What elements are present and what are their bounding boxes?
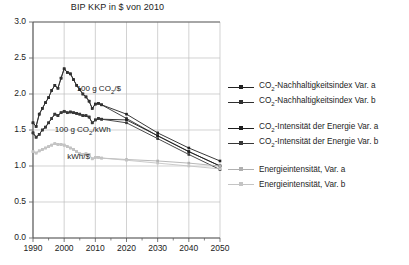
series-point-marker (41, 107, 44, 110)
legend-item-label: CO2-Intensität der Energie Var. a (259, 121, 378, 136)
chart-legend: CO2-Nachhaltigkeitsindex Var. aCO2-Nachh… (228, 80, 409, 192)
series-point-marker (41, 129, 44, 132)
y-axis-tick-label: 0.5 (2, 196, 26, 206)
series-point-marker (125, 113, 128, 116)
series-point-marker (219, 168, 222, 171)
legend-item[interactable]: CO2-Intensität der Energie Var. a (228, 121, 409, 136)
x-axis-tick-label: 2040 (172, 243, 206, 253)
legend-item-label: Energieintensität, Var. b (259, 179, 345, 190)
series-point-marker (125, 122, 128, 125)
series-point-marker (41, 148, 44, 151)
series-point-marker (66, 111, 69, 114)
series-point-marker (94, 119, 97, 122)
series-point-marker (69, 147, 72, 150)
legend-item[interactable]: CO2-Nachhaltigkeitsindex Var. b (228, 95, 409, 110)
legend-item-label: CO2-Nachhaltigkeitsindex Var. b (259, 95, 376, 110)
legend-line-swatch (228, 97, 254, 108)
series-point-marker (188, 150, 191, 153)
series-point-marker (156, 134, 159, 137)
y-axis-tick-label: 2.0 (2, 88, 26, 98)
series-point-marker (60, 143, 63, 146)
legend-item[interactable]: Energieintensität, Var. a (228, 162, 409, 177)
x-axis-tick-label: 2050 (203, 243, 237, 253)
series-point-marker (66, 145, 69, 148)
series-point-marker (125, 159, 128, 162)
x-axis-tick-label: 2000 (47, 243, 81, 253)
legend-group-spacer (228, 110, 409, 121)
x-axis-tick-label: 2010 (78, 243, 112, 253)
series-point-marker (44, 101, 47, 104)
series-point-marker (156, 137, 159, 140)
series-point-marker (97, 156, 100, 159)
y-axis-tick-label: 0.0 (2, 232, 26, 242)
series-point-marker (47, 96, 50, 99)
series-point-marker (85, 96, 88, 99)
series-point-marker (100, 104, 103, 107)
series-point-marker (54, 142, 57, 145)
y-axis-tick-label: 3.0 (2, 16, 26, 26)
series-point-marker (188, 165, 191, 168)
series-point-marker (78, 113, 81, 116)
series-point-marker (72, 148, 75, 151)
annotation-kwh-per-dollar: kWh/$ (67, 152, 90, 161)
series-point-marker (63, 144, 66, 147)
series-point-marker (38, 113, 41, 116)
series-point-marker (91, 122, 94, 125)
series-point-marker (32, 150, 35, 153)
series-point-marker (91, 107, 94, 110)
series-point-marker (60, 77, 63, 80)
series-point-marker (72, 78, 75, 81)
series-point-marker (91, 158, 94, 161)
legend-line-swatch (228, 82, 254, 93)
series-point-marker (54, 84, 57, 87)
legend-line-swatch (228, 138, 254, 149)
subscript: 2 (89, 129, 92, 135)
series-point-marker (188, 153, 191, 156)
legend-item[interactable]: CO2-Intensität der Energie Var. b (228, 136, 409, 151)
series-point-marker (69, 111, 72, 114)
legend-item[interactable]: Energieintensität, Var. b (228, 177, 409, 192)
series-point-marker (66, 71, 69, 74)
series-point-marker (35, 136, 38, 139)
series-point-marker (156, 162, 159, 165)
series-point-marker (97, 117, 100, 120)
legend-item-label: CO2-Intensität der Energie Var. b (259, 136, 378, 151)
series-point-marker (63, 68, 66, 71)
legend-item-label: CO2-Nachhaltigkeitsindex Var. a (259, 80, 376, 95)
subscript: 2 (271, 127, 274, 133)
subscript: 2 (111, 88, 114, 94)
annotation-co2-per-kwh: 100 g CO2/kWh (55, 125, 111, 136)
series-point-marker (63, 110, 66, 113)
series-point-marker (54, 113, 57, 116)
x-axis-tick-label: 1990 (16, 243, 50, 253)
series-point-marker (50, 144, 53, 147)
x-axis-tick-label: 2030 (141, 243, 175, 253)
legend-line-swatch (228, 179, 254, 190)
subscript: 2 (271, 86, 274, 92)
legend-item-label: Energieintensität, Var. a (259, 164, 345, 175)
legend-item[interactable]: CO2-Nachhaltigkeitsindex Var. a (228, 80, 409, 95)
legend-line-swatch (228, 123, 254, 134)
subscript: 2 (271, 101, 274, 107)
series-point-marker (75, 112, 78, 115)
series-point-marker (72, 111, 75, 114)
series-point-marker (38, 150, 41, 153)
series-point-marker (50, 89, 53, 92)
y-axis-tick-label: 2.5 (2, 52, 26, 62)
chart-title: BIP KKP in $ von 2010 (0, 2, 235, 12)
series-point-marker (156, 132, 159, 135)
series-point-marker (100, 118, 103, 121)
legend-line-swatch (228, 164, 254, 175)
series-point-marker (97, 102, 100, 105)
series-point-marker (60, 111, 63, 114)
series-point-marker (188, 162, 191, 165)
series-point-marker (94, 156, 97, 159)
y-axis-tick-label: 1.0 (2, 160, 26, 170)
series-point-marker (85, 114, 88, 117)
series-point-marker (88, 116, 91, 119)
series-point-marker (88, 100, 91, 103)
series-point-marker (100, 157, 103, 160)
series-point-marker (94, 103, 97, 106)
series-point-marker (47, 122, 50, 125)
series-point-marker (125, 119, 128, 122)
